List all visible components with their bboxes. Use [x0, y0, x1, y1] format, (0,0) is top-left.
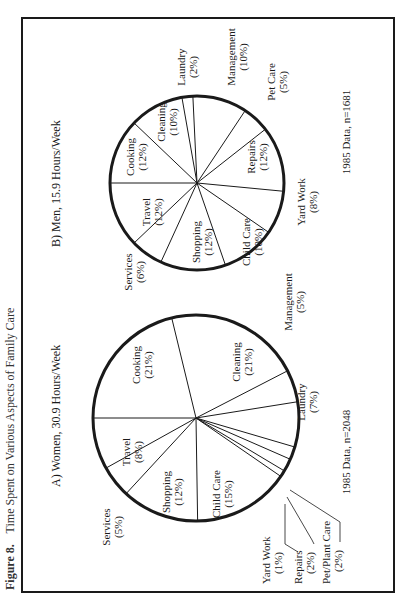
slice-divider [196, 418, 290, 459]
slice-divider [196, 418, 284, 471]
svg-text:Management(10%): Management(10%) [225, 28, 250, 85]
slice-divider [197, 183, 269, 232]
svg-text:Laundry(2%): Laundry(2%) [175, 48, 200, 86]
svg-text:Cleaning(21%): Cleaning(21%) [230, 342, 255, 382]
svg-text:Shopping(12%): Shopping(12%) [160, 470, 185, 513]
women-pie-chart [93, 315, 299, 521]
svg-text:Cooking(21%): Cooking(21%) [130, 346, 155, 384]
slice-divider [172, 318, 196, 418]
slice-divider [197, 183, 284, 191]
svg-text:Shopping(12%): Shopping(12%) [190, 220, 215, 263]
label-repairs: Repairs(2%) [292, 550, 317, 584]
svg-text:Child Care(15%): Child Care(15%) [210, 470, 235, 518]
women-footnote: 1985 Data, n=2048 [340, 409, 352, 494]
figure-canvas: Figure 8. Time Spent on Various Aspects … [0, 0, 404, 602]
svg-text:Travel(12%): Travel(12%) [140, 198, 165, 226]
svg-text:Laundry(7%): Laundry(7%) [295, 383, 320, 421]
men-panel-title: B) Men, 15.9 Hours/Week [49, 120, 63, 247]
figure-frame [22, 18, 394, 592]
label-yard-work: Yard Work(1%) [260, 536, 285, 584]
svg-text:Pet Care(5%): Pet Care(5%) [265, 63, 290, 101]
slice-divider [196, 418, 198, 521]
label-pet-plant-care: Pet/Plant Care(2%) [320, 521, 345, 584]
svg-text:Services(5%): Services(5%) [100, 508, 125, 545]
slice-divider [196, 418, 295, 447]
svg-text:Services(6%): Services(6%) [122, 253, 147, 290]
svg-text:Repairs(12%): Repairs(12%) [245, 140, 270, 174]
women-panel-title: A) Women, 30.9 Hours/Week [49, 345, 63, 487]
svg-text:Travel(8%): Travel(8%) [120, 438, 145, 466]
svg-text:Management(5%): Management(5%) [282, 273, 307, 330]
figure-caption: Figure 8. Time Spent on Various Aspects … [3, 308, 17, 590]
slice-divider [197, 111, 245, 183]
svg-text:Yard Work(8%): Yard Work(8%) [295, 178, 320, 226]
landscape-figure: Figure 8. Time Spent on Various Aspects … [3, 18, 394, 592]
svg-text:Cleaning(10%): Cleaning(10%) [155, 102, 180, 142]
slice-divider [196, 418, 281, 476]
men-footnote: 1985 Data, n=1681 [340, 90, 352, 175]
svg-text:Cooking(12%): Cooking(12%) [124, 138, 149, 176]
svg-text:Child Care(10%): Child Care(10%) [240, 218, 265, 266]
